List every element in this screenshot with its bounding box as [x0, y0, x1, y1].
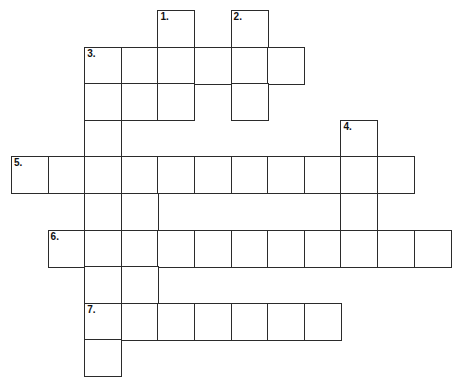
crossword-clue-number: 7.	[87, 304, 95, 316]
crossword-cell[interactable]	[121, 83, 159, 121]
crossword-cell-numbered[interactable]: 1.	[157, 10, 195, 48]
crossword-clue-number: 6.	[51, 231, 59, 243]
crossword-cell[interactable]	[121, 156, 159, 194]
crossword-cell[interactable]	[157, 83, 195, 121]
crossword-cell[interactable]	[121, 47, 159, 85]
crossword-cell[interactable]	[84, 156, 122, 194]
crossword-cell[interactable]	[121, 266, 159, 304]
crossword-clue-number: 1.	[160, 11, 168, 23]
crossword-cell[interactable]	[157, 230, 195, 268]
crossword-cell[interactable]	[267, 156, 305, 194]
crossword-cell-numbered[interactable]: 6.	[48, 230, 86, 268]
crossword-cell[interactable]	[121, 230, 159, 268]
crossword-cell[interactable]	[84, 339, 122, 377]
crossword-cell[interactable]	[340, 230, 378, 268]
crossword-cell[interactable]	[157, 156, 195, 194]
crossword-cell-numbered[interactable]: 5.	[11, 156, 49, 194]
crossword-cell[interactable]	[121, 193, 159, 231]
crossword-cell[interactable]	[304, 156, 342, 194]
crossword-clue-number: 4.	[343, 121, 351, 133]
crossword-cell[interactable]	[194, 47, 232, 85]
crossword-cell[interactable]	[157, 47, 195, 85]
crossword-cell-numbered[interactable]: 4.	[340, 120, 378, 158]
crossword-cell[interactable]	[377, 230, 415, 268]
crossword-cell[interactable]	[84, 83, 122, 121]
crossword-cell[interactable]	[157, 303, 195, 341]
crossword-cell[interactable]	[304, 303, 342, 341]
crossword-cell[interactable]	[414, 230, 452, 268]
crossword-cell[interactable]	[231, 303, 269, 341]
crossword-cell[interactable]	[84, 230, 122, 268]
crossword-cell-numbered[interactable]: 3.	[84, 47, 122, 85]
crossword-cell[interactable]	[377, 156, 415, 194]
crossword-cell[interactable]	[231, 47, 269, 85]
crossword-cell-numbered[interactable]: 7.	[84, 303, 122, 341]
crossword-cell[interactable]	[267, 303, 305, 341]
crossword-cell[interactable]	[48, 156, 86, 194]
crossword-cell[interactable]	[194, 303, 232, 341]
crossword-clue-number: 5.	[14, 157, 22, 169]
crossword-cell[interactable]	[231, 230, 269, 268]
crossword-cell-numbered[interactable]: 2.	[231, 10, 269, 48]
crossword-cell[interactable]	[231, 156, 269, 194]
crossword-cell[interactable]	[194, 230, 232, 268]
crossword-cell[interactable]	[340, 193, 378, 231]
crossword-cell[interactable]	[304, 230, 342, 268]
crossword-cell[interactable]	[84, 193, 122, 231]
crossword-cell[interactable]	[267, 230, 305, 268]
crossword-cell[interactable]	[121, 303, 159, 341]
crossword-clue-number: 3.	[87, 48, 95, 60]
crossword-cell[interactable]	[340, 156, 378, 194]
crossword-cell[interactable]	[84, 120, 122, 158]
crossword-cell[interactable]	[267, 47, 305, 85]
crossword-cell[interactable]	[84, 266, 122, 304]
crossword-cell[interactable]	[194, 156, 232, 194]
crossword-cell[interactable]	[231, 83, 269, 121]
crossword-clue-number: 2.	[234, 11, 242, 23]
